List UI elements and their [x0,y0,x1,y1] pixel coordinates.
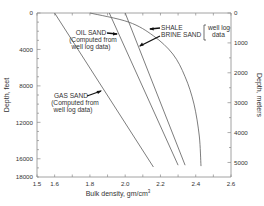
well-log-bracket [204,25,206,40]
annotation-gas-sand: GAS SAND (Computed from well log data) [51,91,102,115]
x-tick-labels: 1.5 1.6 1.8 2.0 2.2 2.4 2.6 [33,180,236,187]
y-tick-right: 4000 [234,129,248,136]
oil-sand-note-2: well log data) [71,43,111,51]
gas-sand-label: GAS SAND [54,92,88,99]
left-tick-labels: 0 4000 8000 12000 16000 18000 [16,9,34,180]
y-tick-left: 18000 [16,173,34,180]
annotation-oil-sand: OIL SAND (Computed from well log data) [69,29,118,51]
y-tick-left: 4000 [19,46,33,53]
gas-sand-arrowhead [97,91,103,95]
y-tick-right: 1000 [234,39,248,46]
x-tick: 2.6 [227,180,236,187]
y-tick-left: 8000 [19,82,33,89]
x-tick: 2.0 [121,180,130,187]
x-tick: 1.6 [50,180,59,187]
brine-sand-label: BRINE SAND [161,31,202,38]
y-tick-right: 2000 [234,69,248,76]
oil-sand-arrowhead [113,32,118,35]
oil-sand-label: OIL SAND [76,29,107,36]
gas-sand-note-2: well log data) [53,106,93,114]
y-tick-right: 0 [234,9,238,16]
x-tick: 2.2 [156,180,165,187]
right-tick-labels: 0 1000 2000 3000 4000 5000 [234,9,248,166]
y-tick-right: 5000 [234,159,248,166]
x-axis-title: Bulk density, gm/cm3 [86,189,151,198]
shale-arrowhead [149,27,154,30]
y-tick-left: 16000 [16,155,34,162]
well-log-label-2: data [212,31,225,38]
y-tick-right: 3000 [234,99,248,106]
density-depth-chart: 0 4000 8000 12000 16000 18000 0 1000 200… [0,0,264,206]
y-tick-left: 12000 [16,119,34,126]
x-tick: 2.4 [191,180,200,187]
y-axis-title-right: Depth, meters [255,73,263,117]
x-tick: 1.5 [33,180,42,187]
x-tick: 1.8 [86,180,95,187]
y-tick-left: 0 [30,9,34,16]
brine-sand-arrowhead [139,43,144,47]
shale-label: SHALE [161,24,183,31]
y-axis-title-left: Depth, feet [3,78,11,112]
